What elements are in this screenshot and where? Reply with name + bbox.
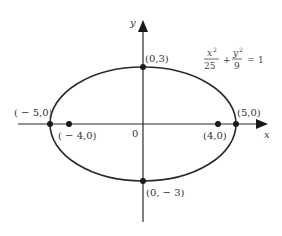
eq-term2-denominator: 9: [234, 61, 240, 71]
eq-term1-denominator: 25: [204, 61, 216, 71]
top-vertex-point: [140, 64, 146, 70]
diagram-canvas: y x 0 (0,3) (0, − 3) ( − 5,0) (5,0) ( − …: [0, 0, 282, 236]
left-focus-label: ( − 4,0): [58, 130, 97, 141]
y-axis-arrow-icon: [138, 20, 148, 32]
ellipse-diagram: y x 0 (0,3) (0, − 3) ( − 5,0) (5,0) ( − …: [0, 0, 282, 236]
origin-label: 0: [132, 128, 138, 139]
right-vertex-label: (5,0): [237, 107, 261, 118]
x-axis-label: x: [264, 129, 270, 140]
x-axis-arrow-icon: [256, 119, 268, 129]
bottom-vertex-label: (0, − 3): [146, 187, 185, 198]
eq-equals: =: [247, 55, 255, 65]
eq-term1-exponent: 2: [213, 46, 217, 53]
left-vertex-label: ( − 5,0): [14, 107, 53, 118]
y-axis-label: y: [129, 17, 136, 28]
left-focus-point: [66, 121, 72, 127]
eq-term2-exponent: 2: [239, 46, 243, 53]
eq-term2-numerator: y: [232, 48, 239, 58]
eq-term1-numerator: x: [207, 48, 212, 58]
bottom-vertex-point: [140, 178, 146, 184]
right-focus-point: [215, 121, 221, 127]
ellipse-equation: x 2 25 + y 2 9 = 1: [204, 46, 264, 71]
eq-plus: +: [223, 55, 231, 65]
eq-rhs: 1: [258, 55, 264, 65]
right-vertex-point: [233, 121, 239, 127]
right-focus-label: (4,0): [203, 130, 227, 141]
top-vertex-label: (0,3): [145, 53, 169, 64]
left-vertex-point: [47, 121, 53, 127]
